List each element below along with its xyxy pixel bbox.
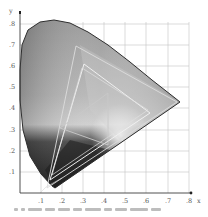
x-axis-ticks: .1 .2 .3 .4 .5 .6 .7 .8 x	[38, 197, 201, 205]
svg-text:.3: .3	[9, 126, 15, 134]
chromaticity-diagram: .1 .2 .3 .4 .5 .6 .7 .8 y .1 .2 .3 .4 .5…	[0, 0, 208, 217]
svg-text:.2: .2	[59, 197, 65, 205]
x-axis-label: x	[197, 197, 201, 205]
svg-text:.7: .7	[9, 41, 15, 49]
svg-text:.5: .5	[122, 197, 128, 205]
x-axis-arrow-icon	[190, 192, 193, 195]
svg-text:.3: .3	[80, 197, 86, 205]
spectral-locus	[18, 18, 183, 190]
y-axis-label: y	[8, 7, 13, 15]
svg-text:.6: .6	[9, 62, 15, 70]
svg-text:.6: .6	[143, 197, 149, 205]
svg-text:.4: .4	[101, 197, 107, 205]
svg-text:.1: .1	[9, 168, 15, 176]
svg-text:.5: .5	[9, 83, 15, 91]
svg-text:.7: .7	[165, 197, 171, 205]
svg-text:.4: .4	[9, 104, 15, 112]
figure-caption	[14, 207, 194, 213]
svg-text:.8: .8	[186, 197, 192, 205]
svg-text:.2: .2	[9, 147, 15, 155]
y-axis-ticks: .1 .2 .3 .4 .5 .6 .7 .8 y	[8, 7, 15, 176]
y-axis-arrow-icon	[19, 11, 21, 14]
svg-text:.1: .1	[38, 197, 44, 205]
svg-text:.8: .8	[9, 20, 15, 28]
